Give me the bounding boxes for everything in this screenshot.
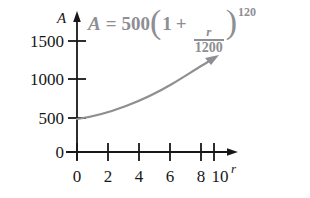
x-axis-arrowhead [227,148,238,156]
formula-exponent: 120 [238,6,256,18]
y-axis-label: A [57,11,66,26]
formula-open-paren: ( [150,11,161,32]
x-tick-label-8: 8 [197,168,206,185]
x-tick-label-0: 0 [73,168,82,185]
formula-close-paren: ) [226,11,237,32]
y-tick-label-500: 500 [14,110,64,127]
y-axis-arrowhead [73,11,81,22]
y-tick-label-0: 0 [14,144,64,161]
formula-one: 1 [162,14,172,33]
exponential-curve [77,59,213,119]
formula-plus: + [176,14,187,33]
formula-fraction: r 1200 [194,25,224,56]
x-tick-label-2: 2 [104,168,113,185]
y-tick-label-1000: 1000 [14,71,64,88]
y-tick-label-1500: 1500 [14,33,64,50]
x-tick-label-10: 10 [212,168,229,185]
x-axis-label: r [231,162,236,175]
formula-lhs: A [88,14,101,33]
formula-denominator: 1200 [195,41,223,56]
formula-equals: = [106,14,117,33]
x-tick-label-6: 6 [166,168,175,185]
formula-annotation: A = 500 ( 1 + r 1200 ) 120 [88,8,256,50]
x-tick-label-4: 4 [135,168,144,185]
formula-coefficient: 500 [122,14,151,33]
formula-numerator: r [206,25,211,39]
math-figure: A r 1500 1000 500 0 0 2 4 6 8 10 A = 500… [0,0,310,198]
